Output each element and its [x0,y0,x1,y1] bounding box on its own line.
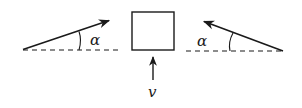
velocity-group: v [148,57,157,101]
right-angle-arc [229,33,233,51]
right-angle-label: α [197,32,207,50]
force-diagram: α v α [0,0,302,108]
left-force-group: α [23,21,118,51]
right-force-group: α [186,22,283,52]
velocity-label: v [148,83,157,101]
right-force-arrow [204,22,283,52]
left-angle-arc [79,32,81,51]
block [132,12,174,50]
left-angle-label: α [90,31,100,49]
